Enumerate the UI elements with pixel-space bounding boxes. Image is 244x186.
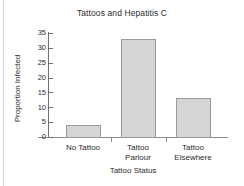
y-tick-label-0: 0: [28, 133, 46, 141]
x-category-label-tattoo-elsewhere: Tattoo Elsewhere: [158, 143, 228, 163]
y-tick-label-35: 35: [28, 29, 46, 37]
y-tick-mark-30: [49, 48, 53, 49]
x-axis-title: Tattoo Status: [38, 166, 228, 175]
y-axis-title: Proportion Infected: [13, 41, 22, 137]
y-tick-label-15: 15: [28, 89, 46, 97]
bar-tattoo-elsewhere: [176, 98, 211, 138]
bar-no-tattoo: [66, 125, 101, 138]
x-separator-2: [166, 137, 167, 142]
y-tick-mark-10: [49, 107, 53, 108]
y-tick-mark-35: [49, 33, 53, 34]
figure-bar-chart: Tattoos and Hepatitis C 0 5 10 15 20 25 …: [0, 0, 244, 186]
y-tick-mark-0: [49, 137, 53, 138]
bar-tattoo-parlour: [121, 39, 156, 138]
x-category-label-line-1: Tattoo: [158, 143, 228, 153]
plot-area: 0 5 10 15 20 25 30 35 Proportion Infecte…: [0, 0, 244, 186]
y-tick-label-5: 5: [28, 118, 46, 126]
y-tick-label-25: 25: [28, 59, 46, 67]
y-tick-mark-5: [49, 122, 53, 123]
y-tick-label-20: 20: [28, 74, 46, 82]
y-tick-mark-20: [49, 78, 53, 79]
y-tick-label-30: 30: [28, 44, 46, 52]
y-tick-mark-25: [49, 63, 53, 64]
y-tick-label-10: 10: [28, 104, 46, 112]
y-tick-mark-15: [49, 92, 53, 93]
x-separator-1: [111, 137, 112, 142]
x-category-label-line-2: Elsewhere: [158, 153, 228, 163]
